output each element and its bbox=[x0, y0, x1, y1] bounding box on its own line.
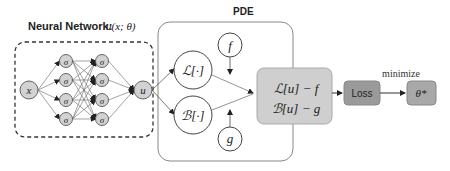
source-g-label: g bbox=[227, 131, 234, 146]
nn-input-node-label: x bbox=[26, 84, 32, 96]
nn-title-math: u(x; θ) bbox=[106, 20, 136, 33]
edge-input-to-h1-1 bbox=[38, 80, 60, 90]
edge-h2-0-to-output bbox=[109, 61, 135, 90]
pde-title: PDE bbox=[233, 6, 254, 17]
nn-hidden-node-1-3: σ bbox=[60, 94, 73, 107]
minimize-label: minimize bbox=[382, 68, 420, 79]
edge-h2-1-to-output bbox=[109, 80, 135, 90]
theta-star-label: θ* bbox=[416, 87, 427, 99]
nn-output-node-label: u bbox=[140, 84, 146, 96]
residual-line1: ℒ[u] − f bbox=[274, 81, 321, 96]
nn-hidden-node-2-3-label: σ bbox=[100, 96, 105, 106]
nn-hidden-node-1-4: σ bbox=[60, 113, 73, 126]
nn-edges bbox=[38, 61, 134, 119]
nn-hidden-node-2-2: σ bbox=[96, 74, 109, 87]
operator-L-label: ℒ[·] bbox=[182, 63, 204, 78]
nn-hidden-node-1-1: σ bbox=[60, 55, 73, 68]
nn-hidden-node-2-1-label: σ bbox=[100, 57, 105, 67]
nn-hidden-node-1-2-label: σ bbox=[64, 76, 69, 86]
nn-output-node: u bbox=[134, 81, 152, 99]
nn-hidden-node-1-3-label: σ bbox=[64, 96, 69, 106]
nn-hidden-node-1-4-label: σ bbox=[64, 115, 69, 125]
nn-hidden-node-1-1-label: σ bbox=[64, 57, 69, 67]
nn-hidden-node-2-2-label: σ bbox=[100, 76, 105, 86]
nn-hidden-node-2-4-label: σ bbox=[100, 115, 105, 125]
nn-hidden-node-2-1: σ bbox=[96, 55, 109, 68]
operator-B-label: ℬ[·] bbox=[181, 108, 204, 123]
nn-input-node: x bbox=[20, 81, 38, 99]
pinn-diagram: Neural Network: u(x; θ) xσσσσσσσσu PDE ℒ… bbox=[0, 0, 450, 171]
loss-label: Loss bbox=[351, 88, 372, 99]
nn-title: Neural Network: bbox=[28, 20, 112, 32]
edge-input-to-h1-3 bbox=[38, 90, 60, 119]
nn-hidden-node-2-4: σ bbox=[96, 113, 109, 126]
nn-nodes: xσσσσσσσσu bbox=[20, 55, 152, 126]
residual-line2: ℬ[u] − g bbox=[272, 101, 321, 116]
edge-input-to-h1-0 bbox=[38, 61, 60, 90]
edge-input-to-h1-2 bbox=[38, 90, 60, 100]
edge-h2-2-to-output bbox=[109, 90, 135, 100]
nn-hidden-node-2-3: σ bbox=[96, 94, 109, 107]
edge-h2-3-to-output bbox=[109, 90, 135, 119]
nn-hidden-node-1-2: σ bbox=[60, 74, 73, 87]
